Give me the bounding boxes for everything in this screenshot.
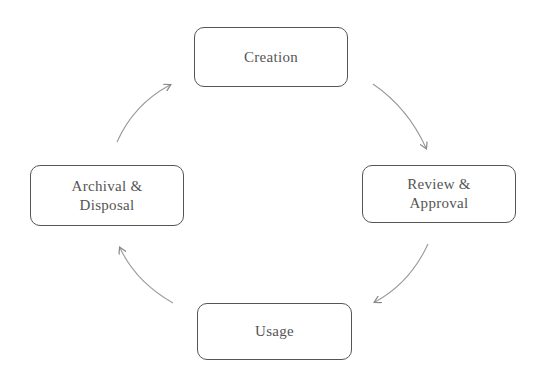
node-creation-label: Creation <box>244 48 298 67</box>
arrow-usage-to-archival <box>120 248 173 303</box>
node-usage-label: Usage <box>255 322 294 341</box>
arrow-creation-to-review <box>373 84 426 148</box>
arrow-archival-to-creation <box>117 85 170 142</box>
node-archival-disposal: Archival & Disposal <box>30 165 184 226</box>
node-usage: Usage <box>197 303 352 360</box>
node-review-approval: Review & Approval <box>362 165 516 223</box>
node-creation: Creation <box>194 27 348 87</box>
node-review-approval-label: Review & Approval <box>407 175 471 213</box>
arrow-review-to-usage <box>375 244 428 302</box>
node-archival-disposal-label: Archival & Disposal <box>72 177 143 215</box>
